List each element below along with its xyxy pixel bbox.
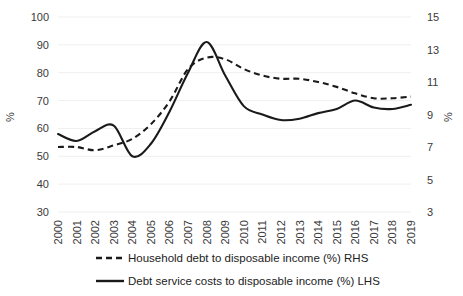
x-axis-tick-label: 2016 bbox=[349, 220, 361, 244]
x-axis-tick-label: 2003 bbox=[108, 220, 120, 244]
y-axis-right-title: % bbox=[442, 112, 454, 122]
y-axis-right-tick-label: 9 bbox=[427, 109, 433, 121]
x-axis-tick-label: 2001 bbox=[71, 220, 83, 244]
x-axis-tick-label: 2010 bbox=[238, 220, 250, 244]
y-axis-left-tick-label: 100 bbox=[31, 11, 49, 23]
x-axis-tick-label: 2017 bbox=[368, 220, 380, 244]
line-chart: 30405060708090100 3579111315 20002001200… bbox=[0, 0, 463, 296]
y-axis-left-tick-label: 70 bbox=[37, 95, 49, 107]
x-axis-tick-label: 2014 bbox=[312, 220, 324, 244]
y-axis-right-tick-label: 5 bbox=[427, 174, 433, 186]
chart-container: 30405060708090100 3579111315 20002001200… bbox=[0, 0, 463, 296]
y-axis-left-title: % bbox=[4, 112, 16, 122]
x-axis-tick-label: 2011 bbox=[256, 220, 268, 244]
y-axis-left-tick-label: 60 bbox=[37, 122, 49, 134]
x-axis-tick-label: 2013 bbox=[294, 220, 306, 244]
x-axis-tick-label: 2009 bbox=[219, 220, 231, 244]
y-axis-left-tick-label: 40 bbox=[37, 178, 49, 190]
legend-label-debt-service: Debt service costs to disposable income … bbox=[128, 275, 380, 287]
y-axis-left-tick-label: 30 bbox=[37, 206, 49, 218]
x-axis-tick-label: 2004 bbox=[126, 220, 138, 244]
x-axis-tick-label: 2015 bbox=[331, 220, 343, 244]
y-axis-left-tick-label: 50 bbox=[37, 150, 49, 162]
x-axis-tick-label: 2000 bbox=[52, 220, 64, 244]
x-axis-tick-label: 2007 bbox=[182, 220, 194, 244]
y-axis-right-tick-label: 3 bbox=[427, 206, 433, 218]
y-axis-left-tick-label: 90 bbox=[37, 39, 49, 51]
x-axis-tick-label: 2002 bbox=[89, 220, 101, 244]
y-axis-right-tick-label: 7 bbox=[427, 141, 433, 153]
x-axis-tick-label: 2005 bbox=[145, 220, 157, 244]
x-axis-tick-label: 2008 bbox=[201, 220, 213, 244]
y-axis-right-tick-label: 15 bbox=[427, 11, 439, 23]
y-axis-right-tick-label: 13 bbox=[427, 44, 439, 56]
y-axis-left-tick-label: 80 bbox=[37, 67, 49, 79]
x-axis-tick-label: 2019 bbox=[405, 220, 417, 244]
legend-label-household-debt: Household debt to disposable income (%) … bbox=[128, 252, 369, 264]
x-axis-tick-label: 2006 bbox=[163, 220, 175, 244]
x-axis-tick-label: 2012 bbox=[275, 220, 287, 244]
y-axis-right-tick-label: 11 bbox=[427, 76, 438, 88]
x-axis-tick-label: 2018 bbox=[386, 220, 398, 244]
